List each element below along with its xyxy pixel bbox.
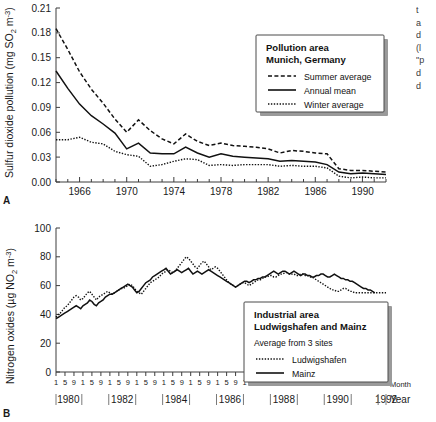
panel-a-x-ticks: [56, 177, 386, 182]
panel-a-xtick-1990: 1990: [352, 186, 375, 197]
panel-a-ytick-4: 0.12: [32, 77, 52, 88]
svg-text:1: 1: [216, 378, 220, 387]
svg-text:5: 5: [90, 378, 94, 387]
svg-text:9: 9: [207, 378, 211, 387]
panel-a-ytick-5: 0.15: [32, 52, 52, 63]
panel-b-ytick-40: 40: [40, 309, 52, 320]
panel-b-legend-title-2: Ludwigshafen and Mainz: [254, 321, 367, 332]
panel-b-legend-label-mainz: Mainz: [292, 369, 315, 379]
clipped-body-text: tad(l"pdd: [416, 4, 436, 109]
svg-text:1988: 1988: [273, 394, 296, 405]
panel-b-ytick-100: 100: [34, 223, 51, 234]
panel-b-ytick-60: 60: [40, 280, 52, 291]
svg-text:9: 9: [234, 378, 238, 387]
svg-text:9: 9: [99, 378, 103, 387]
svg-text:1: 1: [54, 378, 58, 387]
panel-a-ytick-6: 0.18: [32, 27, 52, 38]
panel-b-ytick-0: 0: [45, 367, 51, 378]
panel-a-xtick-1970: 1970: [116, 186, 139, 197]
panel-b-y-tick-labels: 0 20 40 60 80 100: [34, 223, 51, 378]
svg-text:1986: 1986: [219, 394, 242, 405]
panel-a-y-tick-labels: 0.00 0.03 0.06 0.09 0.12 0.15 0.18 0.21: [32, 3, 52, 188]
panel-a-xtick-1978: 1978: [210, 186, 233, 197]
panel-a-xtick-1982: 1982: [257, 186, 280, 197]
svg-text:1982: 1982: [111, 394, 134, 405]
panel-b-letter: B: [3, 408, 10, 419]
svg-text:9: 9: [153, 378, 157, 387]
svg-text:5: 5: [171, 378, 175, 387]
svg-text:1: 1: [135, 378, 139, 387]
svg-text:9: 9: [180, 378, 184, 387]
panel-b-y-ticks: [56, 228, 60, 372]
svg-text:5: 5: [198, 378, 202, 387]
panel-a-xtick-1974: 1974: [163, 186, 186, 197]
panel-a-sulfur-dioxide: Sulfur dioxide pollution (mg SO2 m-3) 0.…: [0, 0, 436, 212]
svg-text:5: 5: [63, 378, 67, 387]
panel-b-ytick-20: 20: [40, 338, 52, 349]
panel-a-ytick-2: 0.06: [32, 127, 52, 138]
svg-text:1: 1: [162, 378, 166, 387]
panel-b-ytick-80: 80: [40, 251, 52, 262]
panel-b-legend-label-ludwigshafen: Ludwigshafen: [292, 355, 346, 365]
svg-text:5: 5: [144, 378, 148, 387]
panel-a-ytick-1: 0.03: [32, 152, 52, 163]
panel-b-year-labels: 1980198219841986198819901992: [56, 394, 398, 405]
panel-b-legend-subtitle: Average from 3 sites: [254, 338, 333, 348]
panel-a-svg: Sulfur dioxide pollution (mg SO2 m-3) 0.…: [0, 0, 436, 212]
panel-b-nitrogen-oxides: Nitrogen oxides (µg NO2 m-3) 0 20 40 60 …: [0, 212, 436, 422]
panel-b-legend-title-1: Industrial area: [254, 309, 320, 320]
panel-a-ytick-3: 0.09: [32, 102, 52, 113]
figure-air-pollution-trends: Sulfur dioxide pollution (mg SO2 m-3) 0.…: [0, 0, 436, 422]
panel-b-month-axis-label: Month: [390, 380, 411, 389]
panel-a-y-axis-label: Sulfur dioxide pollution (mg SO2 m-3): [3, 7, 19, 178]
panel-a-xtick-1966: 1966: [68, 186, 91, 197]
svg-text:9: 9: [126, 378, 130, 387]
panel-b-legend: Industrial area Ludwigshafen and Mainz A…: [244, 302, 392, 386]
panel-a-x-tick-labels: 1966 1970 1974 1978 1982 1986 1990: [68, 186, 374, 197]
svg-text:1984: 1984: [165, 394, 188, 405]
svg-text:9: 9: [72, 378, 76, 387]
panel-a-xtick-1986: 1986: [304, 186, 327, 197]
panel-a-legend-title-1: Pollution area: [266, 42, 330, 53]
panel-b-y-axis-label: Nitrogen oxides (µg NO2 m-3): [4, 248, 20, 384]
panel-a-letter: A: [3, 195, 10, 206]
panel-a-legend-label-winter: Winter average: [304, 100, 364, 110]
svg-text:5: 5: [225, 378, 229, 387]
panel-a-legend: Pollution area Munich, Germany Summer av…: [256, 35, 388, 116]
panel-a-y-ticks: [56, 8, 60, 182]
panel-a-legend-label-summer: Summer average: [304, 72, 372, 82]
svg-text:1: 1: [108, 378, 112, 387]
panel-a-ytick-0: 0.00: [32, 177, 52, 188]
svg-text:1990: 1990: [327, 394, 350, 405]
panel-b-svg: Nitrogen oxides (µg NO2 m-3) 0 20 40 60 …: [0, 212, 436, 422]
svg-text:5: 5: [117, 378, 121, 387]
panel-b-year-axis-label: Year: [390, 394, 411, 405]
panel-a-legend-label-annual: Annual mean: [304, 86, 356, 96]
panel-a-ytick-7: 0.21: [32, 3, 52, 14]
svg-text:1: 1: [81, 378, 85, 387]
svg-text:1: 1: [189, 378, 193, 387]
svg-text:1980: 1980: [57, 394, 80, 405]
panel-a-legend-title-2: Munich, Germany: [266, 54, 346, 65]
